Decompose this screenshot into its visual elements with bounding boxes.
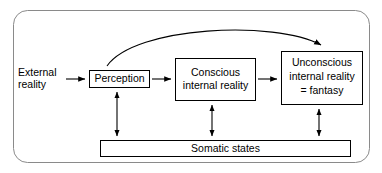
conscious-label-line2: internal reality <box>183 79 249 91</box>
external-reality-label-line1: External <box>18 66 57 78</box>
unconscious-label-line3: = fantasy <box>301 84 345 96</box>
perception-label: Perception <box>94 72 144 84</box>
unconscious-label-line1: Unconscious <box>292 56 352 68</box>
node-conscious-internal-reality: Conscious internal reality <box>176 59 256 101</box>
conscious-label-line1: Conscious <box>191 66 240 78</box>
unconscious-label-line2: internal reality <box>289 70 355 82</box>
diagram-canvas: External reality Perception Conscious in… <box>0 0 382 173</box>
somatic-states-label: Somatic states <box>191 142 260 154</box>
diagram-container: External reality Perception Conscious in… <box>0 0 382 173</box>
external-reality-label-line2: reality <box>18 78 47 90</box>
node-somatic-states: Somatic states <box>101 141 351 157</box>
node-perception: Perception <box>90 71 150 88</box>
node-unconscious-internal-reality: Unconscious internal reality = fantasy <box>282 52 363 105</box>
